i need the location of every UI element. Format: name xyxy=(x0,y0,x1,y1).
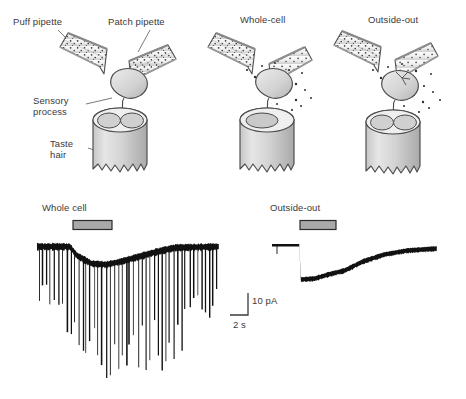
scale-label-time: 2 s xyxy=(233,320,246,331)
outside-out-trace xyxy=(272,244,437,282)
whole-cell-noise-band xyxy=(37,243,219,269)
stimulus-bar-whole-cell xyxy=(73,221,112,230)
scale-label-current: 10 pA xyxy=(252,296,277,307)
stimulus-bar-outside-out xyxy=(300,221,336,230)
outside-out-noise-band xyxy=(272,244,437,282)
whole-cell-trace xyxy=(37,243,219,378)
figure-root: Puff pipette Patch pipette Sensory proce… xyxy=(0,0,466,399)
scale-bar xyxy=(230,293,248,315)
trace-panel xyxy=(0,0,466,399)
